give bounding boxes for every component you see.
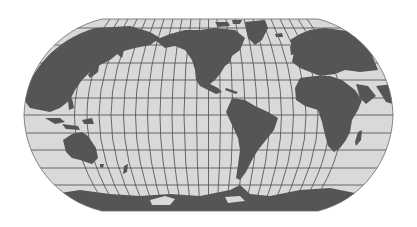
europe bbox=[290, 28, 378, 76]
world-map bbox=[0, 0, 417, 227]
uk bbox=[290, 44, 296, 55]
